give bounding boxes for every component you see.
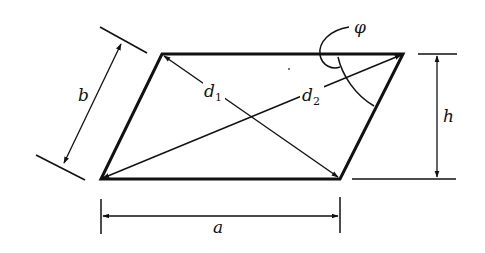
speck (288, 68, 290, 70)
dimension-h: h (352, 54, 457, 179)
angle-phi: φ (320, 17, 374, 106)
side-b-label: b (78, 85, 89, 105)
parallelogram-diagram: d1 d2 b h a φ (0, 0, 485, 253)
angle-phi-label: φ (354, 17, 366, 37)
diagonal-d2 (103, 55, 401, 178)
dimension-a: a (101, 197, 340, 237)
height-h-label: h (443, 106, 454, 126)
phi-leader-curve (320, 27, 349, 68)
phi-angle-arc (338, 57, 374, 106)
dimension-b: b (36, 27, 147, 180)
side-a-label: a (213, 217, 223, 237)
